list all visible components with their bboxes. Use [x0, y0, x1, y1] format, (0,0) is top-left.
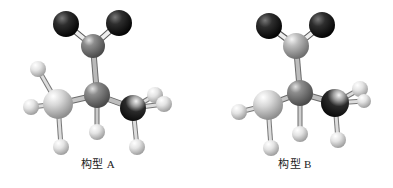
hydrogen-right-side-atom: [357, 94, 371, 108]
molecule-model-a: 构型 A: [0, 0, 196, 188]
oxygen-left-atom: [53, 11, 79, 37]
methyl-carbon-left-atom: [43, 89, 73, 119]
hydrogen-right-lower-atom: [129, 139, 145, 155]
carboxyl-carbon-atom: [81, 34, 105, 58]
methyl-carbon-right-atom: [120, 95, 146, 121]
oxygen-right-atom: [309, 12, 335, 38]
hydrogen-right-lower-atom: [330, 132, 346, 148]
caption-conformer-a: 构型 A: [0, 158, 196, 171]
hydrogen-left-side-atom: [23, 99, 39, 115]
oxygen-right-atom: [106, 10, 132, 36]
methyl-carbon-left-atom: [253, 90, 283, 120]
caption-conformer-b: 构型 B: [197, 158, 393, 171]
hydrogen-left-lower-atom: [53, 139, 69, 155]
hydrogen-left-lower-atom: [263, 140, 279, 156]
atoms-group-b: [231, 12, 371, 156]
methyl-carbon-right-atom: [321, 89, 349, 117]
oxygen-left-atom: [256, 13, 282, 39]
carboxyl-carbon-atom: [283, 33, 309, 59]
hydrogen-right-side-atom: [156, 96, 172, 112]
central-carbon-atom: [287, 80, 313, 106]
molecule-model-b: 构型 B: [197, 0, 393, 188]
hydrogen-left-upper-atom: [30, 61, 46, 77]
central-carbon-atom: [84, 82, 110, 108]
hydrogen-central-atom: [89, 124, 105, 140]
hydrogen-central-lower-atom: [292, 126, 308, 142]
hydrogen-left-side-atom: [231, 104, 247, 120]
figure-canvas: 构型 A: [0, 0, 393, 188]
